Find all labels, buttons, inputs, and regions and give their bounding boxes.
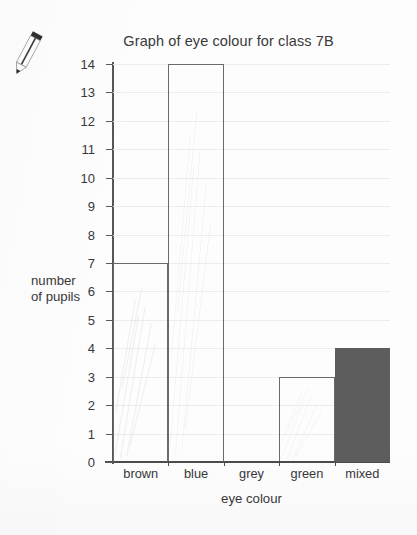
y-axis-tick-label: 11 [82,142,96,157]
gridline [113,235,390,236]
y-axis-tick-label: 2 [88,398,95,413]
bar-brown [113,263,168,462]
y-axis-title-line1: number [31,273,107,289]
y-axis-tick-label: 1 [88,426,95,441]
bar-blue [168,64,223,462]
y-axis-tick-label: 8 [88,227,95,242]
y-axis-tick-label: 3 [88,369,95,384]
y-axis-tick: 1 [106,434,113,435]
y-axis-tick: 6 [106,291,113,292]
x-axis-title: eye colour [113,491,390,506]
bar-mixed [335,348,390,462]
y-axis-tick-label: 5 [88,312,95,327]
gridline [113,64,390,65]
category-label-green: green [279,466,334,481]
category-label-brown: brown [113,466,168,481]
y-axis-tick: 3 [106,377,113,378]
y-axis-tick: 9 [106,206,113,207]
pencil-shading [169,65,222,462]
y-axis-tick: 10 [106,178,113,179]
y-axis-tick-label: 12 [81,113,95,128]
gridline [113,92,390,93]
y-axis-tick-label: 14 [81,57,95,72]
y-axis-tick-label: 4 [88,341,95,356]
y-axis-tick: 4 [106,348,113,349]
y-axis-tick: 7 [106,263,113,264]
y-axis-tick-label: 0 [88,455,95,470]
y-axis-tick: 12 [106,121,113,122]
y-axis-tick: 11 [106,149,113,150]
y-axis-tick-label: 6 [88,284,95,299]
pencil-shading [280,378,333,462]
gridline [113,121,390,122]
scanned-page: Graph of eye colour for class 7B number … [0,0,417,535]
y-axis-title: number of pupils [31,273,107,305]
category-label-grey: grey [224,466,279,481]
category-label-mixed: mixed [335,466,390,481]
y-axis-tick-label: 13 [81,85,95,100]
chart-title: Graph of eye colour for class 7B [0,33,417,49]
y-axis-tick: 5 [106,320,113,321]
y-axis-tick-label: 9 [88,199,95,214]
gridline [113,206,390,207]
x-axis-categories: brownbluegreygreenmixed [113,466,390,486]
pencil-shading [114,264,167,462]
bar-green [279,377,334,462]
gridline [113,149,390,150]
y-axis-tick-label: 10 [81,170,95,185]
plot-area: 01234567891011121314 [113,64,390,462]
y-axis-tick: 13 [106,92,113,93]
y-axis-title-line2: of pupils [31,289,107,305]
gridline [113,178,390,179]
y-axis-tick: 14 [106,64,113,65]
y-axis-tick: 2 [106,405,113,406]
category-label-blue: blue [168,466,223,481]
y-axis-tick: 8 [106,235,113,236]
y-axis-tick-label: 7 [88,256,95,271]
y-axis-tick: 0 [106,462,113,463]
